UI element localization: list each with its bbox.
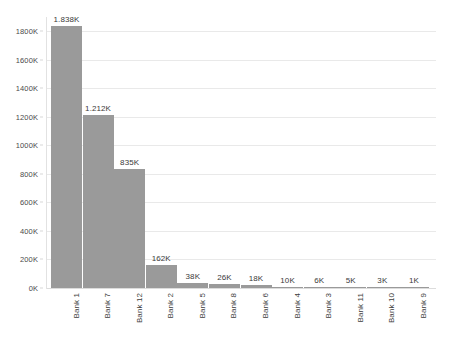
bar-value-label: 1K — [409, 276, 419, 285]
bar-value-label: 835K — [120, 158, 139, 167]
x-tick-label: Bank 6 — [241, 291, 272, 337]
bar[interactable] — [272, 287, 303, 289]
y-tick-mark — [40, 202, 43, 203]
x-axis: Bank 1Bank 7Bank 12Bank 2Bank 5Bank 8Ban… — [47, 291, 436, 339]
bar-chart: 0K200K400K600K800K1000K1200K1400K1600K18… — [0, 0, 451, 339]
bar[interactable] — [114, 169, 145, 288]
bar-value-label: 162K — [152, 254, 171, 263]
y-tick-label: 0K — [29, 284, 38, 293]
x-tick-label: Bank 1 — [51, 291, 82, 337]
bar[interactable] — [51, 26, 82, 288]
bar[interactable] — [177, 283, 208, 288]
bar[interactable] — [241, 285, 272, 288]
x-tick-label: Bank 7 — [83, 291, 114, 337]
y-axis: 0K200K400K600K800K1000K1200K1400K1600K18… — [0, 17, 43, 288]
x-tick-label: Bank 9 — [398, 291, 429, 337]
bar-value-label: 10K — [280, 276, 295, 285]
bar[interactable] — [209, 284, 240, 288]
y-tick-mark — [40, 173, 43, 174]
y-tick-mark — [40, 230, 43, 231]
x-tick-label-text: Bank 2 — [166, 293, 175, 319]
x-tick-label-text: Bank 8 — [229, 293, 238, 319]
x-tick-label-text: Bank 1 — [71, 293, 80, 319]
y-tick-label: 800K — [20, 169, 38, 178]
bar[interactable] — [304, 287, 335, 289]
bar-value-label: 5K — [346, 276, 356, 285]
x-tick-label-text: Bank 11 — [355, 293, 364, 322]
bar[interactable] — [83, 115, 114, 288]
bar-value-label: 38K — [186, 272, 201, 281]
x-tick-label: Bank 4 — [272, 291, 303, 337]
gridline — [47, 31, 436, 32]
x-tick-label-text: Bank 10 — [387, 293, 396, 323]
gridline — [47, 288, 436, 289]
x-tick-label-text: Bank 4 — [292, 293, 301, 319]
x-tick-label-text: Bank 7 — [103, 293, 112, 319]
x-tick-label: Bank 3 — [304, 291, 335, 337]
x-tick-label: Bank 12 — [114, 291, 145, 337]
bar-value-label: 26K — [217, 273, 232, 282]
x-tick-label: Bank 10 — [367, 291, 398, 337]
y-tick-label: 1800K — [16, 27, 38, 36]
x-tick-label-text: Bank 12 — [134, 293, 143, 323]
y-tick-mark — [40, 259, 43, 260]
y-tick-mark — [40, 31, 43, 32]
y-tick-label: 200K — [20, 255, 38, 264]
y-tick-mark — [40, 288, 43, 289]
bar[interactable] — [367, 287, 398, 289]
x-tick-label-text: Bank 9 — [418, 293, 427, 319]
bar-value-label: 1.212K — [85, 104, 111, 113]
bar-value-label: 1.838K — [54, 15, 80, 24]
bar-value-label: 18K — [249, 274, 264, 283]
x-tick-label-text: Bank 6 — [261, 293, 270, 319]
y-tick-label: 1000K — [16, 141, 38, 150]
gridline — [47, 60, 436, 61]
y-tick-mark — [40, 145, 43, 146]
bar-value-label: 3K — [377, 276, 387, 285]
y-tick-label: 1400K — [16, 84, 38, 93]
x-tick-label: Bank 5 — [177, 291, 208, 337]
gridline — [47, 88, 436, 89]
x-tick-label: Bank 11 — [335, 291, 366, 337]
y-tick-label: 400K — [20, 226, 38, 235]
plot-area: 1.838K1.212K835K162K38K26K18K10K6K5K3K1K — [47, 17, 436, 288]
y-tick-mark — [40, 88, 43, 89]
bar[interactable] — [146, 265, 177, 288]
y-tick-label: 600K — [20, 198, 38, 207]
y-tick-mark — [40, 116, 43, 117]
x-tick-label: Bank 8 — [209, 291, 240, 337]
bar[interactable] — [335, 287, 366, 289]
x-tick-label: Bank 2 — [146, 291, 177, 337]
bar[interactable] — [398, 287, 429, 289]
bar-value-label: 6K — [314, 276, 324, 285]
y-tick-label: 1200K — [16, 112, 38, 121]
y-tick-label: 1600K — [16, 55, 38, 64]
x-tick-label-text: Bank 3 — [324, 293, 333, 319]
x-tick-label-text: Bank 5 — [197, 293, 206, 319]
y-tick-mark — [40, 59, 43, 60]
